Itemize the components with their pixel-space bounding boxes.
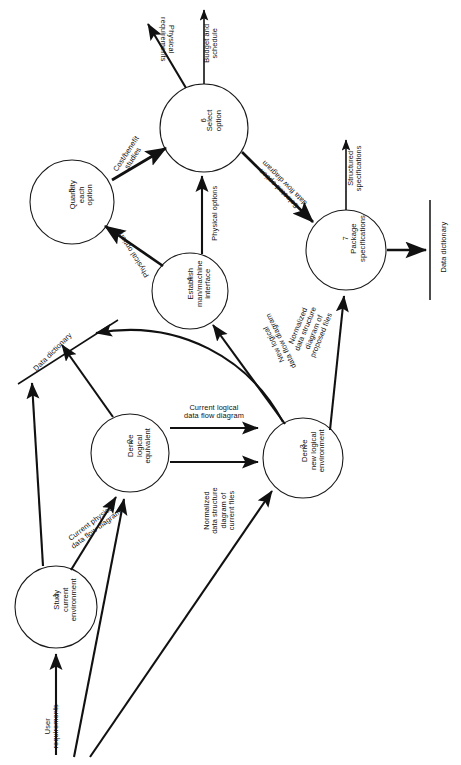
flow-4-to-5-physical-options xyxy=(105,226,163,266)
flow-2-to-data-store-left xyxy=(62,345,113,417)
dfd-svg xyxy=(0,0,461,765)
process-4-circle[interactable] xyxy=(152,253,228,329)
process-5-circle[interactable] xyxy=(30,160,114,244)
process-7-circle[interactable] xyxy=(306,210,386,290)
flow-6-to-7-selected-option-dfd xyxy=(242,152,313,222)
flow-3-to-7-normalized-proposed-files xyxy=(330,296,344,430)
flow-5-to-6-cost-benefit-studies xyxy=(112,148,166,180)
flow-3-to-data-store-left xyxy=(96,330,283,422)
flow-1-to-2 xyxy=(71,497,116,570)
process-2-circle[interactable] xyxy=(91,414,169,492)
flow-3-to-4-new-logical-dfd xyxy=(213,325,285,424)
process-1-circle[interactable] xyxy=(15,566,97,648)
process-6-circle[interactable] xyxy=(160,84,248,172)
flow-6-physical-requirements xyxy=(148,24,186,88)
flow-1-to-data-store-left xyxy=(32,383,43,566)
dfd-canvas: 1 Study current environment 2 Derive log… xyxy=(0,0,461,765)
